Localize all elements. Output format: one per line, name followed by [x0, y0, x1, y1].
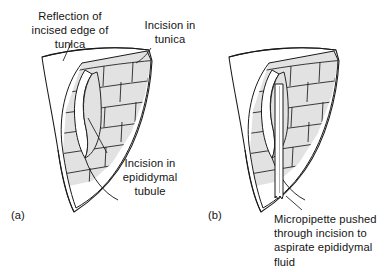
panel-label-b: (b) [208, 209, 222, 221]
label-incision-in-epididymal-tubule: Incision in epididymal tubule [104, 156, 196, 199]
panel-label-a: (a) [11, 209, 25, 221]
label-reflection-of-incised-edge: Reflection of incised edge of tunica [12, 9, 128, 52]
label-incision-in-tunica: Incision in tunica [128, 18, 212, 46]
panel-b-drawing [229, 45, 347, 212]
leader-micropipette [286, 196, 302, 210]
figure-canvas: Reflection of incised edge of tunica Inc… [0, 0, 391, 272]
label-micropipette-caption: Micropipette pushed through incision to … [274, 212, 391, 269]
micropipette [275, 84, 283, 199]
